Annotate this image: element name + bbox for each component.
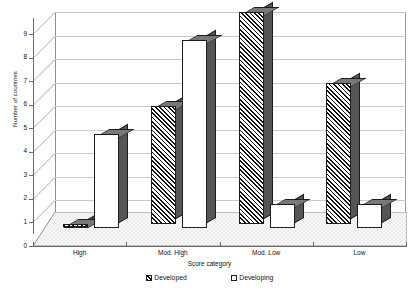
gridline: [55, 83, 406, 84]
depth-connector-line: [33, 36, 56, 59]
gridline: [55, 12, 406, 13]
hatched-square-icon: [146, 275, 152, 281]
y-axis-tick-label: 0: [13, 243, 27, 250]
plot-area-backwall: [55, 12, 406, 224]
y-axis-tick: [29, 152, 34, 153]
y-axis-tick-label: 3: [13, 172, 27, 179]
x-axis-tick: [126, 242, 127, 247]
x-axis-tick: [33, 242, 34, 247]
x-axis-tick: [406, 242, 407, 247]
y-axis-title: Number of countries: [12, 54, 18, 144]
depth-connector-line: [33, 177, 56, 200]
y-axis-tick: [29, 34, 34, 35]
gridline: [55, 36, 406, 37]
gridline: [55, 106, 406, 107]
legend-item-developed: Developed: [146, 274, 187, 281]
y-axis-tick: [29, 175, 34, 176]
legend-label-developing: Developing: [239, 274, 273, 281]
x-axis-tick: [313, 242, 314, 247]
gridline: [55, 200, 406, 201]
y-axis-tick-label: 1: [13, 219, 27, 226]
white-square-icon: [231, 275, 237, 281]
y-axis-tick-label: 4: [13, 148, 27, 155]
x-axis-tick-label: Low: [324, 249, 394, 256]
legend-item-developing: Developing: [231, 274, 274, 281]
x-axis-tick-label: High: [45, 249, 115, 256]
gridline: [55, 177, 406, 178]
depth-connector-line: [33, 106, 56, 129]
y-axis-tick-label: 9: [13, 31, 27, 38]
legend-label-developed: Developed: [154, 274, 187, 281]
y-axis-tick: [29, 128, 34, 129]
depth-connector-line: [33, 130, 56, 153]
y-axis-tick-label: 2: [13, 195, 27, 202]
chart-floor: [33, 212, 407, 246]
depth-connector-line: [33, 59, 56, 82]
y-axis-tick: [29, 58, 34, 59]
x-axis-title: Score category: [0, 260, 419, 267]
y-axis-tick: [29, 105, 34, 106]
bar-chart: 0123456789 Number of countries HighMod. …: [0, 0, 419, 293]
x-axis-tick-label: Mod. High: [138, 249, 208, 256]
x-axis-tick-label: Mod. Low: [231, 249, 301, 256]
depth-connector-line: [33, 83, 56, 106]
gridline: [55, 59, 406, 60]
gridline: [55, 130, 406, 131]
chart-legend: Developed Developing: [0, 274, 419, 281]
depth-connector-line: [33, 12, 56, 35]
depth-connector-line: [33, 153, 56, 176]
y-axis-line: [33, 18, 34, 234]
x-axis-tick: [220, 242, 221, 247]
gridline: [55, 153, 406, 154]
y-axis-tick: [29, 81, 34, 82]
y-axis-tick: [29, 199, 34, 200]
plot-area-left-wall: [55, 12, 56, 224]
